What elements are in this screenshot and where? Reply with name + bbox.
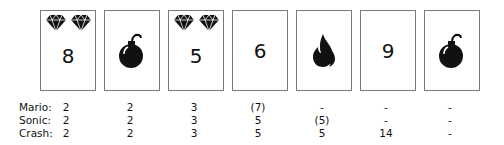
score-cell: - (371, 114, 401, 127)
player-name: Sonic: (19, 114, 51, 127)
card-number[interactable]: 8 (40, 10, 96, 91)
player-name: Crash: (19, 127, 53, 140)
score-cell: - (435, 101, 465, 114)
score-cell: 3 (179, 127, 209, 140)
score-cell: 2 (115, 114, 145, 127)
card-number[interactable]: 5 (168, 10, 224, 91)
card-fire[interactable] (296, 10, 352, 91)
score-cell: 3 (179, 101, 209, 114)
score-cell: - (307, 101, 337, 114)
score-cell: - (435, 114, 465, 127)
card-value: 8 (41, 44, 95, 68)
score-cell: 3 (179, 114, 209, 127)
score-cell: - (371, 101, 401, 114)
score-cell: 5 (307, 127, 337, 140)
diamond-icon (46, 15, 66, 31)
gem-group (41, 15, 95, 31)
score-cell: (5) (307, 114, 337, 127)
card-bomb[interactable] (424, 10, 480, 91)
card-bomb[interactable] (104, 10, 160, 91)
card-value: 9 (361, 39, 415, 63)
fire-icon (311, 34, 337, 68)
score-cell: 14 (371, 127, 401, 140)
player-name: Mario: (19, 101, 52, 114)
diamond-icon (174, 15, 194, 31)
score-cell: - (435, 127, 465, 140)
gem-group (169, 15, 223, 31)
bomb-icon (117, 32, 147, 70)
score-cell: (7) (243, 101, 273, 114)
score-cell: 2 (115, 101, 145, 114)
card-number[interactable]: 6 (232, 10, 288, 91)
card-value: 5 (169, 44, 223, 68)
bomb-icon (437, 32, 467, 70)
score-cell: 5 (243, 127, 273, 140)
diamond-icon (199, 15, 219, 31)
score-cell: 5 (243, 114, 273, 127)
card-value: 6 (233, 39, 287, 63)
card-number[interactable]: 9 (360, 10, 416, 91)
score-cell: 2 (115, 127, 145, 140)
score-cell: 2 (51, 114, 81, 127)
score-cell: 2 (51, 127, 81, 140)
score-cell: 2 (51, 101, 81, 114)
diamond-icon (71, 15, 91, 31)
